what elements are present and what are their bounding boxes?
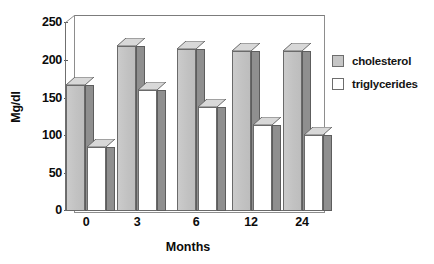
legend-label-cholesterol: cholesterol	[352, 55, 411, 67]
bar-cholesterol-0	[66, 85, 85, 211]
bar-triglycerides-12	[253, 125, 272, 211]
x-axis-title: Months	[118, 240, 258, 254]
bar-series-container	[0, 0, 434, 264]
bar-triglycerides-3	[138, 90, 157, 211]
legend-item-cholesterol: cholesterol	[332, 55, 418, 67]
chart-legend: cholesterol triglycerides	[332, 55, 418, 101]
bar-chart: Mg/dl 250 200 150 100 50 0	[0, 0, 434, 264]
x-tick-label: 3	[134, 215, 141, 229]
legend-swatch-cholesterol-icon	[332, 55, 344, 67]
legend-swatch-triglycerides-icon	[332, 78, 344, 90]
x-tick-label: 24	[295, 215, 308, 229]
bar-cholesterol-3	[117, 46, 136, 211]
x-tick-label: 6	[193, 215, 200, 229]
legend-label-triglycerides: triglycerides	[352, 78, 418, 90]
bar-cholesterol-24	[283, 51, 302, 211]
bar-triglycerides-0	[87, 147, 106, 211]
bar-triglycerides-6	[198, 107, 217, 211]
x-tick-label: 12	[244, 215, 257, 229]
bar-triglycerides-24	[304, 135, 323, 211]
bar-cholesterol-12	[232, 51, 251, 211]
bar-cholesterol-6	[177, 49, 196, 211]
x-tick-label: 0	[83, 215, 90, 229]
legend-item-triglycerides: triglycerides	[332, 78, 418, 90]
